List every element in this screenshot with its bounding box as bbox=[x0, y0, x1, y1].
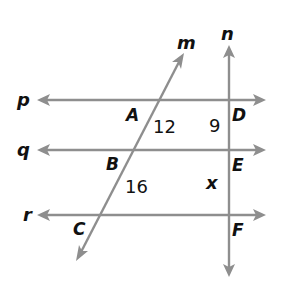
arrowhead-up-icon bbox=[172, 53, 184, 69]
segment-ab-length: 12 bbox=[153, 116, 176, 137]
label-point-c: C bbox=[73, 219, 86, 239]
label-point-f: F bbox=[232, 220, 244, 240]
label-point-e: E bbox=[232, 155, 244, 175]
label-line-m: m bbox=[177, 32, 196, 53]
parallel-lines-diagram: p q r m n A B C D E F 12 16 9 x bbox=[0, 0, 285, 282]
label-point-b: B bbox=[106, 154, 119, 174]
label-line-p: p bbox=[16, 89, 30, 110]
label-line-r: r bbox=[23, 204, 33, 225]
segment-ef-variable: x bbox=[205, 172, 219, 193]
label-point-d: D bbox=[232, 105, 246, 125]
segment-bc-length: 16 bbox=[125, 176, 148, 197]
label-point-a: A bbox=[124, 105, 139, 125]
line-m bbox=[76, 53, 184, 261]
segment-de-length: 9 bbox=[209, 115, 220, 136]
arrowhead-down-icon bbox=[76, 245, 88, 261]
label-line-n: n bbox=[221, 23, 234, 44]
label-line-q: q bbox=[17, 139, 30, 160]
